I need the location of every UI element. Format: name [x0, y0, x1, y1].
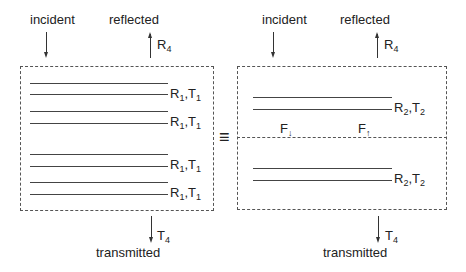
transmitted-arrowhead-icon	[376, 237, 380, 243]
layer-line	[30, 111, 168, 112]
reflected-arrowhead-icon	[375, 32, 379, 38]
equivalence-symbol: ≡	[219, 128, 230, 146]
layer-rt-label: R1,T1	[170, 158, 201, 172]
layer-line	[253, 180, 392, 181]
layer-line	[30, 182, 168, 183]
incident-label: incident	[262, 13, 307, 27]
layer-rt-label: R2,T2	[394, 101, 425, 115]
interface-dashed-line	[237, 137, 447, 138]
transmission-t4-label: T4	[157, 229, 170, 243]
transmission-t4-label: T4	[385, 229, 398, 243]
layer-line	[253, 109, 392, 110]
layer-line	[253, 168, 392, 169]
flux-up-label: F↑	[358, 122, 370, 136]
incident-label: incident	[30, 13, 75, 27]
reflected-arrowhead-icon	[148, 32, 152, 38]
incident-arrowhead-icon	[271, 52, 275, 58]
layer-line	[30, 123, 168, 124]
layer-line	[30, 83, 168, 84]
transmitted-label: transmitted	[323, 246, 387, 260]
layer-line	[30, 154, 168, 155]
layer-rt-label: R1,T1	[170, 186, 201, 200]
transmitted-arrow	[151, 216, 152, 238]
transmitted-arrow	[378, 216, 379, 238]
layer-line	[30, 94, 168, 95]
incident-arrowhead-icon	[44, 52, 48, 58]
reflected-label: reflected	[340, 13, 390, 27]
layer-rt-label: R2,T2	[394, 172, 425, 186]
layer-line	[30, 194, 168, 195]
layer-line	[253, 97, 392, 98]
reflection-r4-label: R4	[157, 38, 171, 52]
reflected-label: reflected	[109, 13, 159, 27]
layer-rt-label: R1,T1	[170, 87, 201, 101]
transmitted-arrowhead-icon	[149, 237, 153, 243]
reflection-r4-label: R4	[384, 38, 398, 52]
incident-arrow	[273, 32, 274, 54]
transmitted-label: transmitted	[96, 246, 160, 260]
layer-rt-label: R1,T1	[170, 115, 201, 129]
flux-down-label: F↓	[280, 122, 292, 136]
incident-arrow	[46, 32, 47, 54]
right-slab-box	[237, 66, 447, 210]
layer-line	[30, 166, 168, 167]
